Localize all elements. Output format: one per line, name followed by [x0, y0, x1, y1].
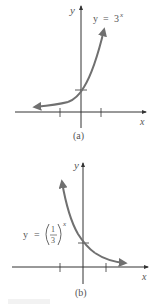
- figure-caption-cutoff: [8, 299, 50, 304]
- panel-a-eq-exponent: x: [119, 11, 124, 19]
- panel-b-curve-right: [95, 253, 125, 263]
- panel-b-y-axis-label: y: [73, 159, 79, 171]
- panel-b-equation: y = 1 3 x: [23, 220, 67, 245]
- panel-b-graph: y x y = 1 3 x (b): [12, 159, 148, 299]
- panel-a-eq-lhs: y: [93, 13, 98, 24]
- panel-b-eq-exponent: x: [62, 220, 67, 228]
- panel-b-eq-right-paren: [58, 224, 61, 245]
- panel-b-x-axis-label: x: [141, 271, 147, 282]
- panel-a-graph: y x y = 3 x (a): [15, 4, 146, 142]
- panel-b-eq-left-paren: [46, 224, 49, 245]
- panel-b-eq-lhs: y: [23, 229, 28, 240]
- panel-b-curve: [62, 182, 95, 253]
- panel-a-x-axis-label: x: [139, 116, 145, 127]
- panel-b-eq-denominator: 3: [51, 236, 55, 245]
- panel-a-eq-equals: =: [103, 13, 109, 24]
- panel-b-eq-numerator: 1: [51, 225, 55, 234]
- panel-b-eq-equals: =: [34, 229, 40, 240]
- panel-b-caption: (b): [75, 287, 87, 299]
- panel-a-caption: (a): [73, 130, 84, 142]
- panel-a-curve: [68, 30, 104, 102]
- panel-a-curve-left: [35, 102, 68, 107]
- figure-canvas: y x y = 3 x (a) y x y = 1 3 x: [0, 0, 160, 308]
- panel-a-eq-base: 3: [114, 13, 119, 24]
- panel-a-equation: y = 3 x: [93, 11, 124, 24]
- panel-a-y-axis-label: y: [69, 4, 75, 16]
